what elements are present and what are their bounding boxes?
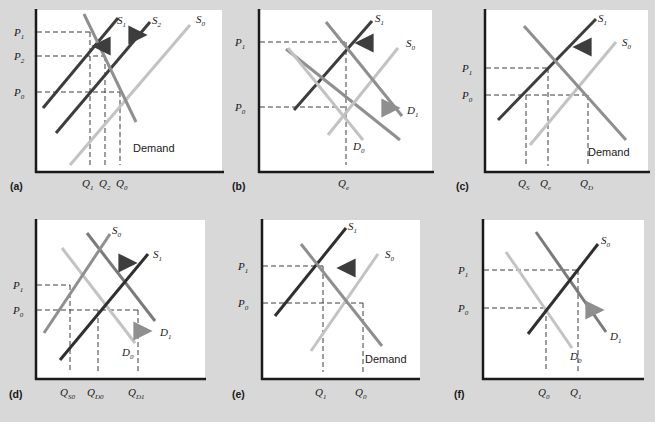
tick-q0-a: Q0 xyxy=(116,177,128,192)
tick-p0-b: P0 xyxy=(234,101,246,116)
tick-p0-d: P0 xyxy=(12,304,24,319)
panel-d: P1 P0 QS0 QD0 QD1 S0 S1 D1 D0 (d) xyxy=(0,208,235,422)
tick-qd1-d: QD1 xyxy=(128,386,145,401)
panel-label-b: (b) xyxy=(232,180,245,192)
figure-panel-grid: P1 P2 P0 Q1 Q2 Q0 S1 S2 S0 Demand (a) P1 xyxy=(0,0,655,422)
tick-p1-d: P1 xyxy=(12,279,23,294)
panel-b: P1 P0 Qe S1 S0 D1 D0 (b) xyxy=(220,0,445,200)
label-demand-c: Demand xyxy=(588,146,630,158)
tick-q1-a: Q1 xyxy=(82,177,93,192)
panel-f: P1 P0 Q0 Q1 S0 D1 D0 (f) xyxy=(438,208,655,422)
tick-p1-e: P1 xyxy=(237,260,248,275)
tick-qd-c: QD xyxy=(580,177,593,192)
tick-p0-f: P0 xyxy=(457,302,469,317)
panel-label-c: (c) xyxy=(456,180,469,192)
panel-label-a: (a) xyxy=(10,180,23,192)
tick-qs-c: QS xyxy=(518,177,530,192)
tick-p0-e: P0 xyxy=(237,297,249,312)
panel-c: P1 P0 QS Qe QD S1 S0 Demand (c) xyxy=(438,0,655,200)
plot-area-d xyxy=(37,220,205,378)
tick-p0-a: P0 xyxy=(13,86,25,101)
tick-q1-f: Q1 xyxy=(570,386,581,401)
panel-a: P1 P2 P0 Q1 Q2 Q0 S1 S2 S0 Demand (a) xyxy=(0,0,235,200)
tick-p1-b: P1 xyxy=(234,36,245,51)
tick-q0-f: Q0 xyxy=(538,386,550,401)
tick-p1-a: P1 xyxy=(13,26,24,41)
tick-qe-b: Qe xyxy=(338,177,349,192)
panel-label-f: (f) xyxy=(454,388,465,400)
tick-q1-e: Q1 xyxy=(315,386,326,401)
tick-q0-e: Q0 xyxy=(355,386,367,401)
tick-qs0-d: QS0 xyxy=(60,386,75,401)
tick-qd0-d: QD0 xyxy=(87,386,104,401)
panel-label-d: (d) xyxy=(9,388,22,400)
label-demand-a: Demand xyxy=(133,142,175,154)
tick-p2-a: P2 xyxy=(13,50,25,65)
panel-e: P1 P0 Q1 Q0 S1 S0 Demand (e) xyxy=(220,208,445,422)
plot-area-f xyxy=(484,220,644,378)
tick-q2-a: Q2 xyxy=(99,177,111,192)
tick-p0-c: P0 xyxy=(461,89,473,104)
label-demand-e: Demand xyxy=(365,353,407,365)
panel-label-e: (e) xyxy=(232,388,245,400)
tick-p1-f: P1 xyxy=(457,264,468,279)
tick-p1-c: P1 xyxy=(461,62,472,77)
tick-qe-c: Qe xyxy=(540,177,551,192)
